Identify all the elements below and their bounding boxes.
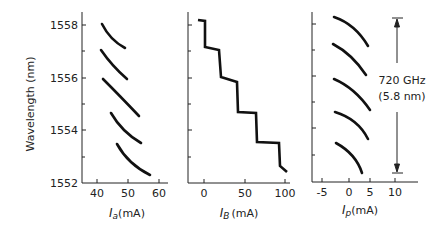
right-xtick-neg5: -5 (317, 186, 328, 199)
ytick-1554: 1554 (50, 124, 78, 137)
ytick-1556: 1556 (50, 72, 78, 85)
right-xtick-10: 10 (388, 186, 402, 199)
left-x-label: Ia(mA) (109, 206, 145, 221)
ytick-1558: 1558 (50, 19, 78, 32)
annotation-wavelength: (5.8 nm) (378, 90, 425, 103)
mid-xtick-100: 100 (275, 187, 296, 200)
right-xtick-5: 5 (367, 186, 374, 199)
right-xtick-0: 0 (346, 186, 353, 199)
right-x-label: Ip(mA) (342, 203, 378, 218)
left-xtick-60: 60 (152, 187, 166, 200)
ytick-1552: 1552 (50, 177, 78, 190)
middle-panel-staircase (198, 20, 287, 172)
left-xtick-50: 50 (121, 187, 135, 200)
mid-xtick-50: 50 (238, 187, 252, 200)
y-axis-label: Wavelength (nm) (24, 56, 37, 151)
mid-xtick-0: 0 (201, 187, 208, 200)
tuning-figure: Wavelength (nm) 1558 1556 1554 1552 40 5… (0, 0, 444, 229)
annotation-frequency: 720 GHz (378, 74, 425, 87)
right-panel-curves (333, 17, 370, 173)
left-xtick-40: 40 (90, 187, 104, 200)
mid-x-label: IB(mA) (220, 206, 259, 221)
left-panel-curves (101, 24, 150, 175)
